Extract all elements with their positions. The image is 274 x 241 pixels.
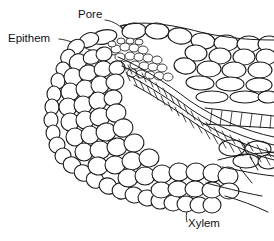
epithem-label: Epithem — [8, 32, 50, 44]
vessel-thickenings — [203, 108, 274, 128]
hydathode-diagram: Pore Epithem Xylem — [0, 0, 274, 241]
pore-label: Pore — [78, 8, 102, 20]
xylem-label: Xylem — [188, 217, 220, 229]
figure-page: Pore Epithem Xylem — [0, 0, 274, 241]
